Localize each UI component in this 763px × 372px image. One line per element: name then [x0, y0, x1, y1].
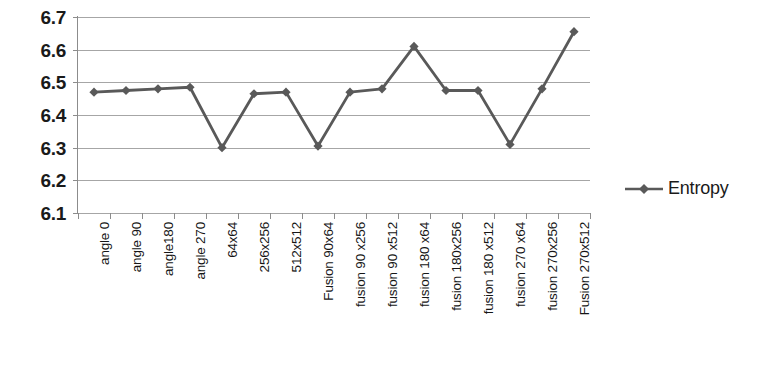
x-axis-category-label: fusion 270 x64 — [510, 222, 524, 307]
x-axis-tick — [206, 213, 207, 219]
x-axis-category-label-text: fusion 90 x512 — [386, 222, 400, 307]
x-axis-tick — [398, 213, 399, 219]
x-axis-tick — [334, 213, 335, 219]
x-axis-tick — [174, 213, 175, 219]
x-axis-category-label-text: Fusion 270x512 — [578, 222, 592, 315]
x-axis-category-label: fusion 90 x512 — [382, 222, 396, 307]
x-axis-category-label: fusion 270x256 — [542, 222, 556, 311]
x-axis-category-label-text: fusion 180 x64 — [418, 222, 432, 307]
x-axis-tick — [430, 213, 431, 219]
x-axis-category-label: fusion 180 x512 — [478, 222, 492, 314]
x-axis-category-label: 512x512 — [286, 222, 300, 272]
y-axis-tick-label: 6.5 — [40, 73, 66, 92]
x-axis-category-label-text: angle 90 — [130, 222, 144, 272]
chart-legend: Entropy — [624, 178, 729, 199]
x-axis-category-label: fusion 180 x64 — [414, 222, 428, 307]
y-axis-tick-label: 6.6 — [40, 40, 66, 59]
x-axis-category-label: angle180 — [158, 222, 172, 276]
x-axis-tick — [494, 213, 495, 219]
plot-area — [78, 17, 590, 213]
x-axis-tick — [142, 213, 143, 219]
x-axis-category-label-text: fusion 270x256 — [546, 222, 560, 311]
entropy-line-chart: 6.16.26.36.46.56.66.7 angle 0angle 90ang… — [0, 0, 763, 372]
x-axis-category-label-text: angle 0 — [98, 222, 112, 265]
x-axis-category-label-text: fusion 180 x512 — [482, 222, 496, 314]
x-axis-category-label-text: 512x512 — [290, 222, 304, 272]
x-axis-category-label-text: angle 270 — [194, 222, 208, 280]
x-axis-category-label-text: fusion 270 x64 — [514, 222, 528, 307]
x-axis-tick — [78, 213, 79, 219]
x-axis-category-label-text: Fusion 90x64 — [322, 222, 336, 301]
legend-label-entropy: Entropy — [668, 178, 729, 199]
data-point-marker — [89, 88, 98, 97]
x-axis-category-label: Fusion 270x512 — [574, 222, 588, 315]
x-axis-category-label-text: 256x256 — [258, 222, 272, 272]
x-axis-tick — [302, 213, 303, 219]
y-axis-tick-labels: 6.16.26.36.46.56.66.7 — [10, 8, 72, 218]
x-axis-category-label: 64x64 — [222, 222, 236, 258]
x-axis-tick — [238, 213, 239, 219]
x-axis-tick — [590, 213, 591, 219]
series-line — [94, 32, 574, 148]
y-axis-tick-label: 6.1 — [40, 204, 66, 223]
y-axis-tick-label: 6.7 — [40, 8, 66, 27]
data-point-marker — [121, 86, 130, 95]
y-axis-tick-label: 6.4 — [40, 106, 66, 125]
x-axis-tick — [110, 213, 111, 219]
x-axis-category-label: 256x256 — [254, 222, 268, 272]
line-diamond-marker-icon — [624, 182, 664, 196]
x-axis-category-labels: angle 0angle 90angle180angle 27064x64256… — [78, 222, 590, 372]
data-point-marker — [153, 84, 162, 93]
x-axis-tick — [558, 213, 559, 219]
x-axis-tick — [526, 213, 527, 219]
data-series-entropy — [78, 17, 590, 213]
y-axis-tick-label: 6.3 — [40, 138, 66, 157]
x-axis-category-label: angle 270 — [190, 222, 204, 280]
x-axis-category-label-text: fusion 90 x256 — [354, 222, 368, 307]
x-axis-category-label: fusion 180x256 — [446, 222, 460, 311]
x-axis-category-label: angle 90 — [126, 222, 140, 272]
x-axis-category-label-text: angle180 — [162, 222, 176, 276]
x-axis-tick — [366, 213, 367, 219]
x-axis-tick — [462, 213, 463, 219]
x-axis-category-label: angle 0 — [94, 222, 108, 265]
x-axis-category-label-text: 64x64 — [226, 222, 240, 258]
y-axis-tick-label: 6.2 — [40, 171, 66, 190]
x-axis-tick — [270, 213, 271, 219]
x-axis-category-label-text: fusion 180x256 — [450, 222, 464, 311]
x-axis-category-label: Fusion 90x64 — [318, 222, 332, 301]
x-axis-category-label: fusion 90 x256 — [350, 222, 364, 307]
